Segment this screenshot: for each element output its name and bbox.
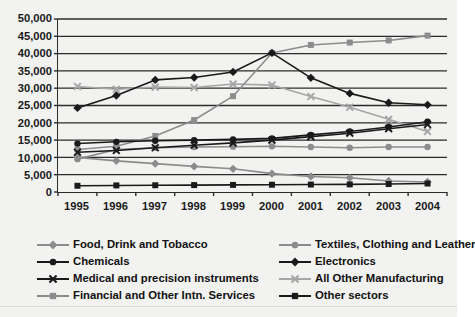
x-axis-tick-labels: 1995199619971998199920002001200220032004 (57, 196, 447, 216)
legend-column-right: Textiles, Clothing and LeatherElectronic… (278, 236, 475, 304)
data-point-marker-diamond (190, 73, 198, 81)
chart-legend: Food, Drink and TobaccoChemicalsMedical … (36, 236, 446, 308)
x-axis-tick-label: 1999 (220, 200, 245, 212)
legend-marker-circle-icon (278, 238, 312, 252)
y-axis-tick-labels: 05,00010,00015,00020,00025,00030,00035,0… (0, 0, 52, 200)
data-point-marker-circle (385, 144, 391, 150)
data-point-marker-circle (424, 144, 430, 150)
data-point-marker-square (191, 117, 197, 123)
data-point-marker-circle (152, 138, 158, 144)
legend-item[interactable]: Financial and Other Intn. Services (36, 287, 259, 304)
legend-item-label: Other sectors (315, 290, 388, 301)
legend-item-label: Electronics (315, 256, 376, 267)
x-axis-tick-label: 2000 (259, 200, 284, 212)
legend-item[interactable]: Other sectors (278, 287, 475, 304)
data-point-marker-circle (50, 258, 57, 265)
y-axis-tick-label: 50,000 (18, 13, 52, 24)
data-point-marker-diamond (151, 76, 159, 84)
data-point-marker-square (308, 42, 314, 48)
data-point-marker-diamond (190, 162, 198, 170)
legend-item[interactable]: Textiles, Clothing and Leather (278, 236, 475, 253)
legend-marker-diamond-icon (36, 238, 70, 252)
legend-item[interactable]: Food, Drink and Tobacco (36, 236, 259, 253)
series-line (77, 122, 427, 144)
series-line (77, 84, 427, 131)
data-point-marker-diamond (73, 104, 81, 112)
data-point-marker-square (269, 182, 275, 188)
legend-item[interactable]: Chemicals (36, 253, 259, 270)
bottom-divider (0, 306, 457, 307)
y-axis-tick-label: 10,000 (18, 153, 52, 164)
data-point-marker-diamond (307, 172, 315, 180)
x-axis-tick-label: 2001 (298, 200, 323, 212)
series-other-sectors (74, 181, 430, 189)
data-point-marker-square (50, 292, 56, 298)
legend-item[interactable]: Medical and precision instruments (36, 270, 259, 287)
plot-area (57, 19, 447, 193)
data-point-marker-diamond (291, 257, 300, 266)
data-point-marker-diamond (307, 74, 315, 82)
data-point-marker-diamond (229, 165, 237, 173)
data-point-marker-square (425, 181, 431, 187)
series-electronics (73, 49, 431, 112)
data-point-marker-diamond (346, 89, 354, 97)
y-axis-tick-label: 30,000 (18, 83, 52, 94)
legend-marker-x-icon (278, 272, 312, 286)
data-point-marker-square (113, 182, 119, 188)
x-axis-tick-label: 2004 (415, 200, 440, 212)
y-axis-tick-label: 25,000 (18, 100, 52, 111)
legend-item-label: Chemicals (73, 256, 130, 267)
x-axis-tick-label: 2002 (337, 200, 362, 212)
data-point-marker-diamond (49, 240, 58, 249)
x-axis-tick-label: 1995 (64, 200, 89, 212)
legend-item[interactable]: All Other Manufacturing (278, 270, 475, 287)
series-line (77, 157, 427, 182)
legend-marker-diamond-icon (278, 255, 312, 269)
data-point-marker-diamond (112, 157, 120, 165)
legend-item-label: Food, Drink and Tobacco (73, 239, 208, 250)
series-textiles-clothing-and-leather (74, 143, 430, 162)
legend-marker-circle-icon (36, 255, 70, 269)
legend-item-label: Medical and precision instruments (73, 273, 259, 284)
data-point-marker-square (386, 181, 392, 187)
legend-item[interactable]: Electronics (278, 253, 475, 270)
x-axis-tick-label: 1996 (103, 200, 128, 212)
legend-item-label: Textiles, Clothing and Leather (315, 239, 475, 250)
data-point-marker-circle (292, 241, 299, 248)
data-point-marker-square (347, 40, 353, 46)
data-point-marker-square (292, 292, 298, 298)
legend-marker-square-icon (278, 289, 312, 303)
legend-marker-square-icon (36, 289, 70, 303)
x-axis-tick-label: 1997 (142, 200, 167, 212)
data-point-marker-square (191, 182, 197, 188)
data-point-marker-square (230, 182, 236, 188)
y-axis-tick-label: 40,000 (18, 48, 52, 59)
data-point-marker-square (347, 181, 353, 187)
legend-marker-x-icon (36, 272, 70, 286)
legend-item-label: All Other Manufacturing (315, 273, 444, 284)
data-point-marker-square (152, 182, 158, 188)
legend-column-left: Food, Drink and TobaccoChemicalsMedical … (36, 236, 259, 304)
data-point-marker-square (425, 33, 431, 39)
series-financial-and-other-intn-services (74, 33, 430, 153)
series-line (77, 36, 427, 150)
data-point-marker-circle (74, 156, 80, 162)
series-food-drink-and-tobacco (73, 153, 431, 186)
y-axis-tick-label: 15,000 (18, 135, 52, 146)
series-all-other-manufacturing (74, 81, 431, 135)
data-series-layer (58, 19, 447, 192)
data-point-marker-diamond (423, 101, 431, 109)
data-point-marker-circle (74, 140, 80, 146)
data-point-marker-circle (269, 143, 275, 149)
series-line (77, 53, 427, 108)
data-point-marker-diamond (229, 68, 237, 76)
data-point-marker-square (230, 93, 236, 99)
data-point-marker-diamond (151, 159, 159, 167)
series-line (77, 184, 427, 186)
legend-item-label: Financial and Other Intn. Services (73, 290, 255, 301)
data-point-marker-square (74, 183, 80, 189)
data-point-marker-square (308, 182, 314, 188)
data-point-marker-diamond (384, 99, 392, 107)
x-axis-tick-label: 2003 (376, 200, 401, 212)
